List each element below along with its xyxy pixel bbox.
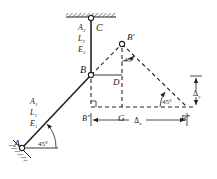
pin-bprime xyxy=(119,41,124,46)
label-d: D xyxy=(112,77,120,87)
pin-c xyxy=(88,15,93,20)
label-bprime: B′ xyxy=(127,32,135,42)
svg-text:L1: L1 xyxy=(29,108,37,118)
label-a: A xyxy=(13,138,21,149)
label-bdouble: B″ xyxy=(82,114,91,123)
svg-text:E2: E2 xyxy=(77,45,86,55)
label-btriple: B‴ xyxy=(181,114,190,123)
displacement-lines xyxy=(91,44,193,107)
pin-b xyxy=(88,72,93,77)
dashed-b-to-bprime xyxy=(91,44,122,75)
bar-ab-properties: A1 L1 E1 xyxy=(29,97,37,129)
bar-bc-properties: A2 L2 E2 xyxy=(77,23,86,55)
label-g: G xyxy=(118,113,125,123)
angle-label-bprime: 45° xyxy=(124,56,134,64)
pin-a xyxy=(19,145,24,150)
label-c: C xyxy=(96,22,103,33)
label-b: B xyxy=(80,64,86,75)
angle-label-a: 45° xyxy=(38,140,48,148)
angle-label-btriple: 45° xyxy=(162,98,172,106)
right-angle-mark xyxy=(91,101,96,107)
svg-text:A1: A1 xyxy=(29,97,37,107)
truss-displacement-diagram: C B A B′ D B″ G B‴ A2 L2 E2 A1 L1 E1 45°… xyxy=(0,0,217,179)
dashed-bprime-to-btriple xyxy=(122,44,187,107)
delta-x-label: Δx xyxy=(134,116,142,126)
svg-text:E1: E1 xyxy=(29,119,37,129)
angle-arc-a xyxy=(47,124,56,148)
svg-text:A2: A2 xyxy=(77,23,86,33)
delta-y-label: Δy xyxy=(193,89,201,99)
svg-text:L2: L2 xyxy=(77,34,85,44)
